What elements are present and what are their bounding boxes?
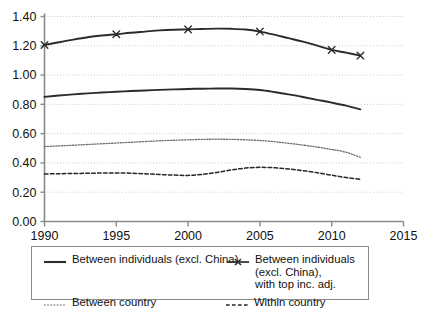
legend-entry-within-country: Within country [225, 296, 368, 309]
legend-row-1: Between individuals (excl. China) Betwee… [32, 253, 368, 291]
data-markers-group [41, 26, 364, 59]
x-tick-label: 1995 [102, 229, 130, 240]
legend-label-between-country: Between country [72, 296, 156, 309]
y-tick-label: 0.80 [12, 98, 36, 112]
x-tick-label: 2010 [318, 229, 346, 240]
x-tick-label: 2000 [174, 229, 202, 240]
x-tick-label: 2005 [246, 229, 274, 240]
y-tick-label: 0.20 [12, 186, 36, 200]
legend-swatch-x-marker-icon [226, 256, 250, 268]
legend-label-line1: Between individuals (excl. China), [255, 253, 355, 278]
legend-row-2: Between country Within country [32, 296, 368, 309]
y-tick-label: 1.40 [12, 10, 36, 24]
tick-marks-group [41, 17, 404, 227]
legend-label-line2: with top inc. adj. [255, 278, 336, 290]
line-chart-plot: 0.000.200.400.600.801.001.201.40 1990199… [0, 0, 435, 240]
legend-label-within-country: Within country [254, 296, 326, 309]
x-tick-label: 1990 [31, 229, 59, 240]
y-tick-label: 1.20 [12, 39, 36, 53]
y-tick-label: 0.60 [12, 127, 36, 141]
x-tick-label: 2015 [390, 229, 418, 240]
y-axis-tick-labels: 0.000.200.400.600.801.001.201.40 [12, 10, 36, 229]
series-line [45, 29, 361, 56]
legend-swatch-solid-icon [43, 256, 67, 268]
y-tick-label: 0.00 [12, 215, 36, 229]
axes-group [45, 14, 404, 222]
series-line [45, 139, 361, 157]
series-line [45, 89, 361, 110]
legend-entry-between-individuals: Between individuals (excl. China) [32, 253, 226, 268]
series-line [45, 167, 361, 179]
x-axis-tick-labels: 199019952000200520102015 [31, 229, 418, 240]
y-tick-label: 1.00 [12, 68, 36, 82]
legend-label-between-individuals: Between individuals (excl. China) [72, 253, 238, 266]
legend-entry-between-country: Between country [32, 296, 225, 309]
gridlines-group [45, 17, 404, 193]
legend-label-between-individuals-topinc: Between individuals (excl. China), with … [255, 253, 370, 291]
legend-swatch-dotted-icon [43, 299, 67, 309]
legend-entry-between-individuals-topinc: Between individuals (excl. China), with … [226, 253, 370, 291]
chart-legend: Between individuals (excl. China) Betwee… [31, 246, 369, 300]
chart-figure: 0.000.200.400.600.801.001.201.40 1990199… [0, 0, 435, 309]
legend-swatch-dashed-icon [225, 299, 249, 309]
y-tick-label: 0.40 [12, 156, 36, 170]
